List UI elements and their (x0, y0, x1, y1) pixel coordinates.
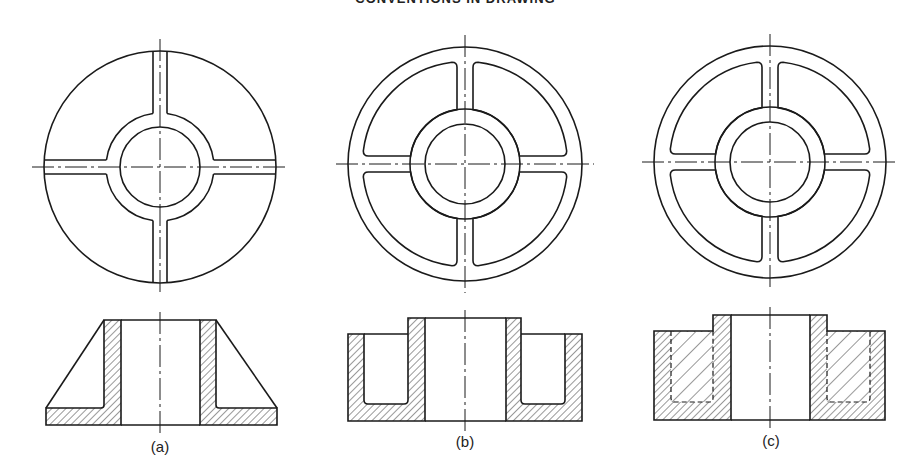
figure-b (336, 35, 594, 433)
hub-arc (106, 113, 153, 160)
taper-edge-left (46, 320, 104, 408)
rib-window (363, 172, 457, 266)
hub-arc (167, 174, 214, 221)
figure-a (32, 39, 288, 437)
figure-label-b: (b) (456, 433, 474, 450)
hatched-section-left (46, 320, 121, 425)
hub-arc (106, 174, 153, 221)
rib-window (473, 172, 567, 266)
pocket-hatch (671, 332, 713, 402)
technical-drawing: (a) (b) (c) (0, 0, 911, 476)
figure-label-c: (c) (762, 432, 780, 449)
rib-window (473, 62, 567, 156)
rib-window (363, 62, 457, 156)
rib-window (670, 170, 762, 262)
hub-arc (167, 113, 214, 160)
rib-window (778, 170, 870, 262)
figure-c (642, 34, 898, 432)
pocket-hatch (827, 332, 870, 402)
taper-edge-right (216, 320, 277, 408)
figure-label-a: (a) (151, 438, 169, 455)
rib-window (778, 62, 870, 154)
hatched-section-right (200, 320, 277, 425)
rib-window (670, 62, 762, 154)
